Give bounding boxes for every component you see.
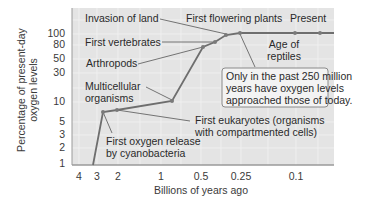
annotation-invasion-of-land: Invasion of land: [85, 12, 159, 24]
x-tick: 3: [94, 170, 100, 182]
annotation-age-of-reptiles-line2: reptiles: [267, 50, 301, 62]
oxygen-levels-chart: 100 80 50 30 10 5 3 2 1 4 3 2 1 0.5 0.25…: [0, 0, 370, 201]
y-tick: 2: [59, 141, 65, 153]
y-axis-title: Percentage of present-day oxygen levels: [15, 27, 39, 151]
annotation-first-oxygen-line2: by cyanobacteria: [106, 147, 186, 159]
annotation-arthropods: Arthropods: [86, 57, 137, 69]
y-tick: 5: [59, 115, 65, 127]
y-tick: 80: [53, 38, 65, 50]
x-tick: 1: [158, 170, 164, 182]
x-axis-title: Billions of years ago: [154, 184, 248, 196]
annotation-present: Present: [290, 12, 326, 24]
callout-text-line3: approached those of today.: [226, 94, 352, 106]
x-tick: 2: [115, 170, 121, 182]
y-tick: 50: [53, 52, 65, 64]
y-axis-title-line2: oxygen levels: [27, 58, 39, 122]
callout-text-line2: years have oxygen levels: [226, 82, 344, 94]
x-tick: 0.5: [194, 170, 209, 182]
annotation-first-eukaryotes-line1: First eukaryotes (organisms: [195, 114, 325, 126]
x-tick-labels: 4 3 2 1 0.5 0.25 0.1: [76, 170, 303, 182]
annotation-first-vertebrates: First vertebrates: [85, 36, 161, 48]
y-tick-labels: 100 80 50 30 10 5 3 2 1: [47, 27, 65, 169]
y-tick: 1: [59, 157, 65, 169]
y-tick: 10: [53, 95, 65, 107]
x-tick: 4: [76, 170, 82, 182]
annotation-age-of-reptiles-line1: Age of: [269, 38, 299, 50]
x-tick: 0.1: [289, 170, 304, 182]
y-tick: 3: [59, 128, 65, 140]
annotation-first-eukaryotes-line2: with compartmented cells): [194, 126, 317, 138]
annotation-multicellular-line2: organisms: [85, 92, 133, 104]
y-tick: 30: [53, 66, 65, 78]
callout-text-line1: Only in the past 250 million: [226, 70, 352, 82]
x-tick: 0.25: [231, 170, 252, 182]
annotation-multicellular-line1: Multicellular: [85, 80, 141, 92]
annotation-first-oxygen-line1: First oxygen release: [106, 135, 201, 147]
y-axis-title-line1: Percentage of present-day: [15, 27, 27, 151]
annotation-first-flowering-plants: First flowering plants: [186, 12, 282, 24]
